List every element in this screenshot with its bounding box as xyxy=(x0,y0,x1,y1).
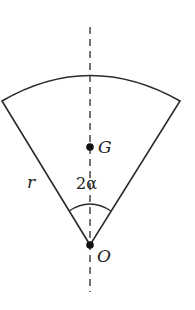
sector-diagram: G O r 2α xyxy=(0,0,195,310)
label-r: r xyxy=(27,172,36,192)
sector-outline xyxy=(2,76,180,246)
label-g: G xyxy=(98,137,112,157)
centre-of-mass-point xyxy=(86,143,94,151)
apex-point xyxy=(86,241,94,249)
label-angle: 2α xyxy=(76,174,97,193)
label-o: O xyxy=(97,246,111,266)
